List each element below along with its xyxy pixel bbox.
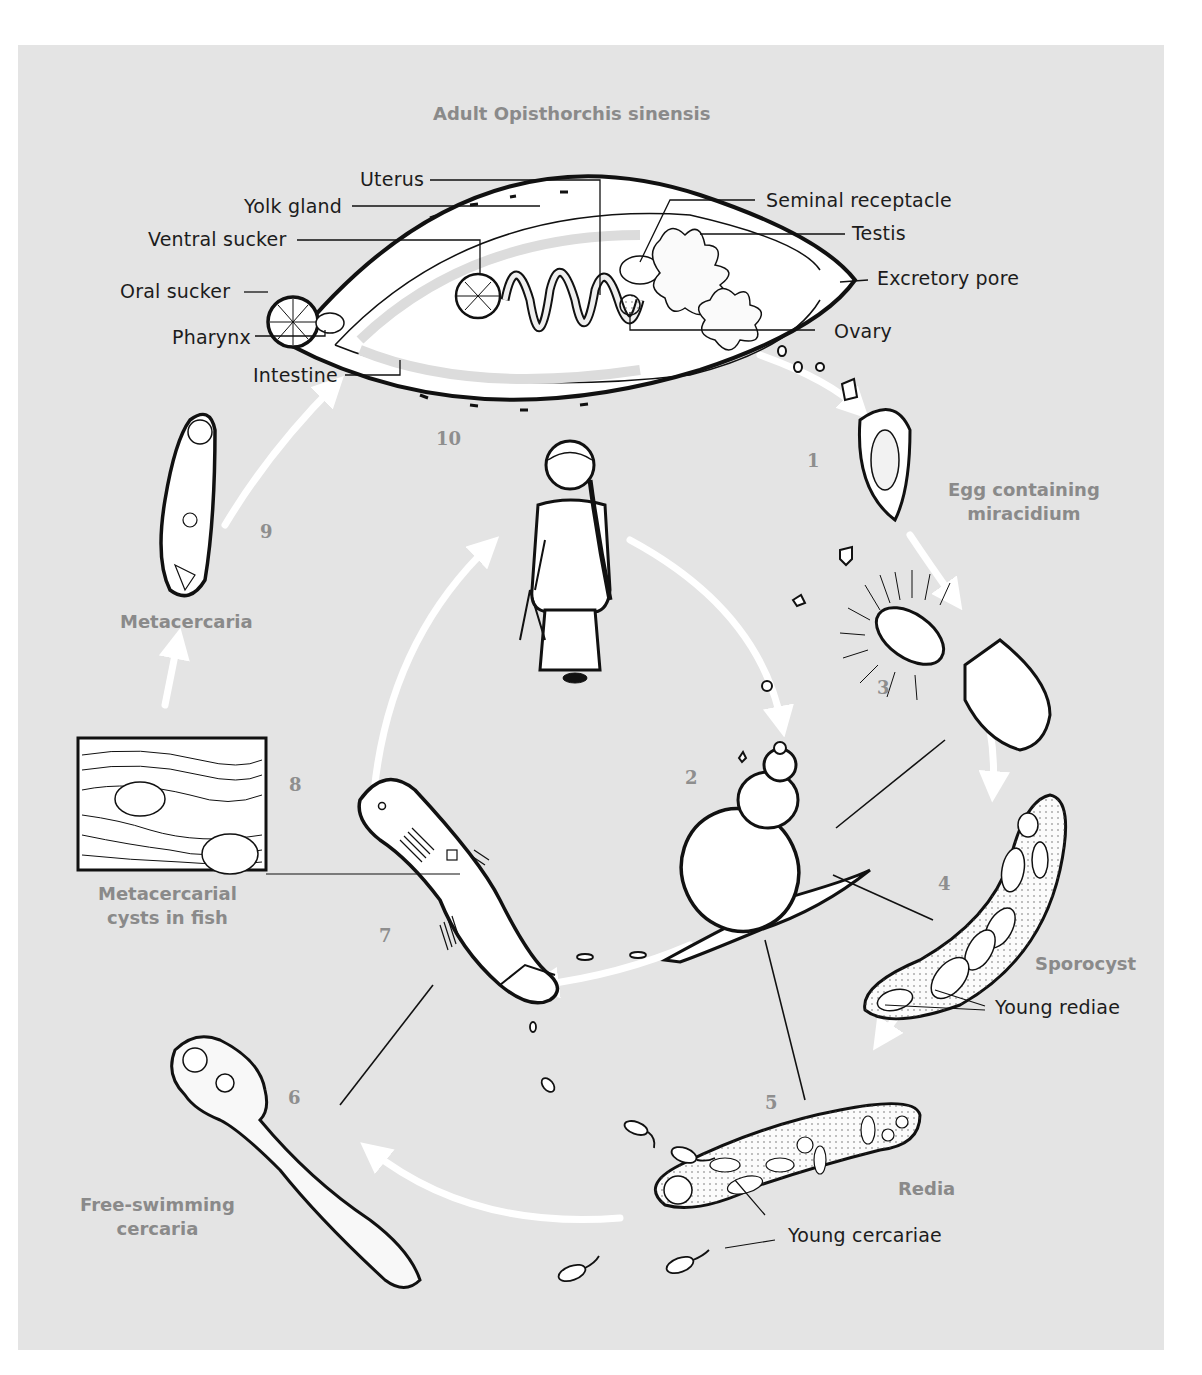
label-testis: Testis [852, 222, 906, 244]
stage-label-sporocyst: Sporocyst [1035, 952, 1136, 976]
sporocyst-icon [865, 795, 1066, 1019]
cercaria-icon [530, 952, 715, 1284]
step-number-2: 2 [685, 767, 698, 788]
fish-icon [359, 780, 557, 1003]
life-cycle-illustration [0, 0, 1202, 1375]
label-pharynx: Pharynx [172, 326, 251, 348]
label-uterus: Uterus [360, 168, 424, 190]
step-number-8: 8 [289, 774, 302, 795]
stage-label-egg: Egg containing miracidium [948, 478, 1100, 526]
step-number-9: 9 [260, 521, 273, 542]
step-number-6: 6 [288, 1087, 301, 1108]
miracidium-icon [840, 570, 1050, 750]
step-number-4: 4 [938, 873, 951, 894]
label-seminal-receptacle: Seminal receptacle [766, 189, 952, 211]
step-number-5: 5 [765, 1092, 778, 1113]
label-young-cercariae: Young cercariae [788, 1224, 942, 1246]
stage-label-cysts: Metacercarial cysts in fish [98, 882, 237, 930]
label-oral-sucker: Oral sucker [120, 280, 230, 302]
label-yolk-gland: Yolk gland [244, 195, 342, 217]
step-number-7: 7 [379, 925, 392, 946]
stage-label-metacercaria: Metacercaria [120, 610, 253, 634]
label-young-rediae: Young rediae [995, 996, 1120, 1018]
label-ovary: Ovary [834, 320, 892, 342]
label-ventral-sucker: Ventral sucker [148, 228, 287, 250]
step-number-1: 1 [807, 450, 820, 471]
diagram-title: Adult Opisthorchis sinensis [433, 103, 710, 124]
human-host-icon [520, 441, 610, 683]
stage-label-cercaria: Free-swimming cercaria [80, 1193, 235, 1241]
stage-label-redia: Redia [898, 1177, 955, 1201]
connector-lines [340, 740, 945, 1105]
step-number-3: 3 [877, 677, 890, 698]
step-number-10: 10 [436, 428, 461, 449]
label-intestine: Intestine [253, 364, 338, 386]
metacercaria-icon [161, 414, 215, 595]
label-excretory-pore: Excretory pore [877, 267, 1019, 289]
